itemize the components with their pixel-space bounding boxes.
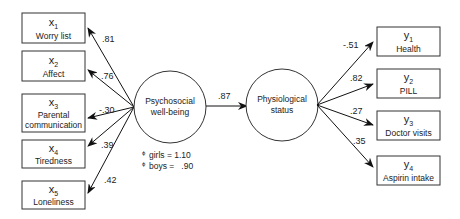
variance-girls: ϕ girls = 1.10 [142,150,191,160]
indicator-y1: y1 Health [377,27,440,56]
loading-label-x5: .42 [104,175,117,185]
loading-label-y3: .27 [350,106,363,116]
indicator-y2: y2 PILL [377,69,440,98]
svg-text:PILL: PILL [400,86,418,96]
indicator-x3: x3 Parental communication [22,94,85,132]
latent-psychosocial: Psychosocial well-being [134,71,206,143]
svg-text:Physiological: Physiological [257,94,307,104]
svg-text:Parental: Parental [38,110,70,120]
path-diagram: x1 Worry list x2 Affect x3 Parental comm… [0,0,460,219]
svg-text:status: status [271,105,294,115]
indicator-x2: x2 Affect [22,51,85,81]
indicator-y3: y3 Doctor visits [377,111,440,140]
svg-text:Psychosocial: Psychosocial [145,96,195,106]
svg-text:Doctor visits: Doctor visits [385,128,431,138]
indicator-x5: x5 Loneliness [22,181,85,209]
loading-label-y4: .35 [353,136,366,146]
svg-text:Loneliness: Loneliness [33,197,74,207]
loading-label-y2: .82 [350,73,363,83]
svg-text:well-being: well-being [150,107,190,117]
indicator-x4: x4 Tiredness [22,140,85,168]
loading-label-x1: .81 [102,34,115,44]
svg-text:Affect: Affect [43,69,65,79]
svg-text:Worry list: Worry list [36,31,72,41]
loading-arrow-y1 [317,42,373,105]
variance-boys: ϕ boys = .90 [142,161,193,171]
svg-text:Tiredness: Tiredness [35,156,72,166]
indicator-x1: x1 Worry list [22,13,85,43]
loading-label-x2: .76 [101,71,114,81]
svg-text:Health: Health [396,44,421,54]
loading-label-x4: .39 [101,140,114,150]
indicator-y4: y4 Aspirin intake [377,156,440,185]
structural-coefficient: .87 [218,91,231,101]
svg-text:communication: communication [25,120,82,130]
loading-arrow-y2 [317,84,373,105]
svg-text:Aspirin intake: Aspirin intake [383,173,434,183]
svg-text:girls = 1.10: girls = 1.10 [149,150,191,160]
loading-label-x3: -.30 [99,105,115,115]
loading-label-y1: -.51 [343,40,359,50]
latent-physiological: Physiological status [246,69,318,141]
svg-text:ϕ: ϕ [142,150,146,156]
svg-text:ϕ: ϕ [142,161,146,167]
svg-text:boys = .90: boys = .90 [149,161,193,171]
